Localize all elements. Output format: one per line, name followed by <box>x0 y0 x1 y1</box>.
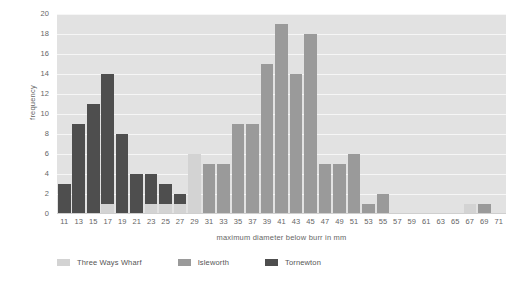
x-axis-tick-label: 31 <box>202 216 216 228</box>
legend-swatch-icon <box>57 259 70 266</box>
bar-stack <box>304 34 317 214</box>
x-axis-tick-label: 23 <box>144 216 158 228</box>
bar-segment <box>275 24 288 214</box>
bar-segment <box>159 184 172 204</box>
bar-slot <box>260 14 274 214</box>
bar-segment <box>130 174 143 214</box>
bar-group <box>57 14 506 214</box>
bar-slot <box>57 14 71 214</box>
x-axis-tick-label: 21 <box>129 216 143 228</box>
bar-slot <box>289 14 303 214</box>
legend-item[interactable]: Tornewton <box>265 258 321 267</box>
bar-slot <box>202 14 216 214</box>
bar-segment <box>261 64 274 214</box>
bar-stack <box>261 64 274 214</box>
bar-slot <box>463 14 477 214</box>
y-axis: frequency 02468101214161820 <box>20 14 53 214</box>
y-axis-tick-label: 4 <box>45 170 49 178</box>
x-axis-tick-label: 27 <box>173 216 187 228</box>
x-axis-tick-label: 49 <box>332 216 346 228</box>
bar-segment <box>377 194 390 214</box>
bar-segment <box>72 124 85 214</box>
bar-stack <box>101 74 114 214</box>
legend-swatch-icon <box>265 259 278 266</box>
bar-stack <box>145 174 158 214</box>
x-axis-tick-label: 15 <box>86 216 100 228</box>
y-axis-tick-label: 2 <box>45 190 49 198</box>
legend-label: Three Ways Wharf <box>77 258 142 267</box>
bar-slot <box>318 14 332 214</box>
y-axis-tick-label: 20 <box>40 10 49 18</box>
x-axis-tick-label: 69 <box>477 216 491 228</box>
bar-stack <box>333 164 346 214</box>
x-axis-tick-label: 13 <box>71 216 85 228</box>
legend-item[interactable]: Isleworth <box>178 258 229 267</box>
bar-slot <box>448 14 462 214</box>
bar-stack <box>130 174 143 214</box>
y-axis-tick-label: 6 <box>45 150 49 158</box>
legend: Three Ways WharfIsleworthTornewton <box>57 258 477 267</box>
bar-stack <box>174 194 187 214</box>
y-axis-tick-label: 12 <box>40 90 49 98</box>
bar-stack <box>319 164 332 214</box>
y-axis-tick-label: 8 <box>45 130 49 138</box>
x-axis-tick-label: 29 <box>187 216 201 228</box>
bar-stack <box>377 194 390 214</box>
x-axis-tick-label: 63 <box>434 216 448 228</box>
x-axis-baseline <box>57 213 506 214</box>
x-axis-tick-label: 11 <box>57 216 71 228</box>
bar-segment <box>232 124 245 214</box>
bar-segment <box>145 174 158 204</box>
bar-segment <box>319 164 332 214</box>
y-axis-tick-label: 14 <box>40 70 49 78</box>
bar-segment <box>348 154 361 214</box>
y-axis-tick-label: 18 <box>40 30 49 38</box>
bar-slot <box>173 14 187 214</box>
y-axis-tick-label: 0 <box>45 210 49 218</box>
bar-slot <box>492 14 506 214</box>
bar-segment <box>101 74 114 204</box>
bar-stack <box>87 104 100 214</box>
bar-stack <box>116 134 129 214</box>
bar-slot <box>100 14 114 214</box>
y-axis-label: frequency <box>28 73 37 133</box>
bar-slot <box>376 14 390 214</box>
x-axis-tick-label: 51 <box>347 216 361 228</box>
bar-segment <box>290 74 303 214</box>
bar-segment <box>203 164 216 214</box>
legend-item[interactable]: Three Ways Wharf <box>57 258 142 267</box>
x-axis-tick-label: 37 <box>245 216 259 228</box>
x-axis-tick-label: 71 <box>492 216 506 228</box>
bar-segment <box>188 154 201 214</box>
x-axis-ticks: 1113151719212325272931333537394143454749… <box>57 216 506 228</box>
x-axis-label: maximum diameter below burr in mm <box>57 233 506 242</box>
legend-swatch-icon <box>178 259 191 266</box>
plot-area <box>57 14 506 214</box>
bar-slot <box>434 14 448 214</box>
bar-slot <box>303 14 317 214</box>
bar-slot <box>274 14 288 214</box>
bar-segment <box>217 164 230 214</box>
bar-segment <box>87 104 100 214</box>
bar-segment <box>246 124 259 214</box>
x-axis-tick-label: 53 <box>361 216 375 228</box>
bar-stack <box>246 124 259 214</box>
bar-slot <box>332 14 346 214</box>
bar-slot <box>129 14 143 214</box>
y-axis-tick-label: 10 <box>40 110 49 118</box>
x-axis-tick-label: 17 <box>100 216 114 228</box>
x-axis-tick-label: 55 <box>376 216 390 228</box>
bar-stack <box>188 154 201 214</box>
bar-stack <box>58 184 71 214</box>
x-axis-tick-label: 35 <box>231 216 245 228</box>
bar-slot <box>216 14 230 214</box>
bar-slot <box>144 14 158 214</box>
legend-label: Isleworth <box>198 258 229 267</box>
x-axis-tick-label: 45 <box>303 216 317 228</box>
bar-slot <box>390 14 404 214</box>
bar-stack <box>217 164 230 214</box>
bar-segment <box>174 194 187 204</box>
bar-stack <box>232 124 245 214</box>
bar-segment <box>333 164 346 214</box>
bar-slot <box>115 14 129 214</box>
